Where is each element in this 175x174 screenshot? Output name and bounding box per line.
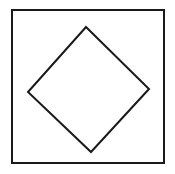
geometry-figure xyxy=(0,0,175,174)
figure-canvas xyxy=(0,0,175,174)
